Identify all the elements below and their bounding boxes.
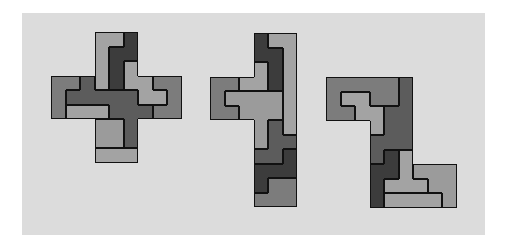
puzzle-cell [167,76,182,90]
puzzle-cell [95,47,109,61]
puzzle-cell [254,149,268,164]
puzzle-cell [326,77,341,92]
puzzle-cell [254,135,268,149]
puzzle-cell [254,178,268,193]
puzzle-cell [283,62,297,77]
puzzle-cell [239,106,254,120]
puzzle-cell [167,90,182,105]
puzzle-cell [51,76,66,90]
puzzle-cell [428,164,442,179]
puzzle-cell [370,179,384,193]
puzzle-cell [124,90,138,105]
puzzle-cell [283,77,297,91]
puzzle-cell [355,106,370,121]
puzzle-cell [370,77,384,92]
puzzle-cell [384,106,399,121]
puzzle-cell [399,77,413,92]
puzzle-cell [283,149,297,164]
puzzle-cell [66,105,80,119]
puzzle-cell [268,164,283,178]
puzzle-cell [268,91,283,106]
puzzle-cell [370,193,384,208]
puzzle-cell [442,164,457,179]
puzzle-cell [370,135,384,150]
puzzle-cell [225,106,239,120]
puzzle-cell [95,76,109,90]
puzzle-cell [268,48,283,62]
hook-shape [326,77,457,208]
puzzle-cell [254,164,268,178]
puzzle-cell [153,105,167,119]
puzzle-cell [138,76,153,90]
puzzle-cell [384,77,399,92]
puzzle-cell [254,106,268,120]
puzzle-cell [225,91,239,106]
puzzle-cell [384,164,399,179]
puzzle-cell [384,121,399,135]
puzzle-cell [109,105,124,119]
puzzle-cell [124,105,138,119]
puzzle-cell [95,105,109,119]
puzzle-cell [95,61,109,76]
puzzle-cell [254,91,268,106]
puzzle-cell [399,135,413,150]
puzzle-cell [399,193,413,208]
puzzle-cell [370,106,384,121]
puzzle-cell [268,62,283,77]
puzzle-cell [153,76,167,90]
puzzle-cell [341,92,355,106]
puzzle-cell [268,77,283,91]
puzzle-cell [109,76,124,90]
puzzle-cell [326,92,341,106]
puzzle-cell [442,179,457,193]
column-shape [210,33,297,207]
puzzle-cell [109,119,124,134]
puzzle-cell [95,148,109,163]
puzzle-cell [109,134,124,148]
puzzle-cell [384,193,399,208]
puzzle-cell [109,61,124,76]
puzzle-cell [254,33,268,48]
puzzle-cell [326,106,341,121]
puzzle-cell [124,61,138,76]
puzzle-cell [254,120,268,135]
puzzle-cell [341,106,355,121]
puzzle-cell [268,120,283,135]
puzzle-cell [428,179,442,193]
puzzle-cell [109,47,124,61]
puzzle-cell [124,76,138,90]
puzzle-cell [399,179,413,193]
puzzle-cell [239,91,254,106]
puzzle-cell [399,106,413,121]
puzzle-cell [442,193,457,208]
puzzle-cell [95,134,109,148]
puzzle-cell [124,148,138,163]
puzzle-cell [210,77,225,91]
puzzle-cell [283,178,297,193]
puzzle-cell [370,164,384,179]
puzzle-cell [370,150,384,164]
puzzle-cell [283,120,297,135]
puzzle-cell [399,164,413,179]
puzzle-cell [268,135,283,149]
puzzle-cell [80,105,95,119]
puzzle-cell [413,179,428,193]
puzzle-cell [225,77,239,91]
puzzle-cell [413,193,428,208]
puzzle-cell [341,77,355,92]
puzzle-cell [239,77,254,91]
puzzle-cell [384,92,399,106]
puzzle-cell [80,90,95,105]
puzzle-cell [268,106,283,120]
puzzle-cell [95,32,109,47]
puzzle-cell [384,179,399,193]
puzzle-cell [138,105,153,119]
puzzle-cell [283,106,297,120]
puzzle-cell [268,33,283,48]
puzzle-cell [254,193,268,207]
puzzle-cell [283,193,297,207]
puzzle-cell [109,148,124,163]
puzzle-cell [283,135,297,149]
puzzle-cell [210,91,225,106]
puzzle-cell [124,119,138,134]
